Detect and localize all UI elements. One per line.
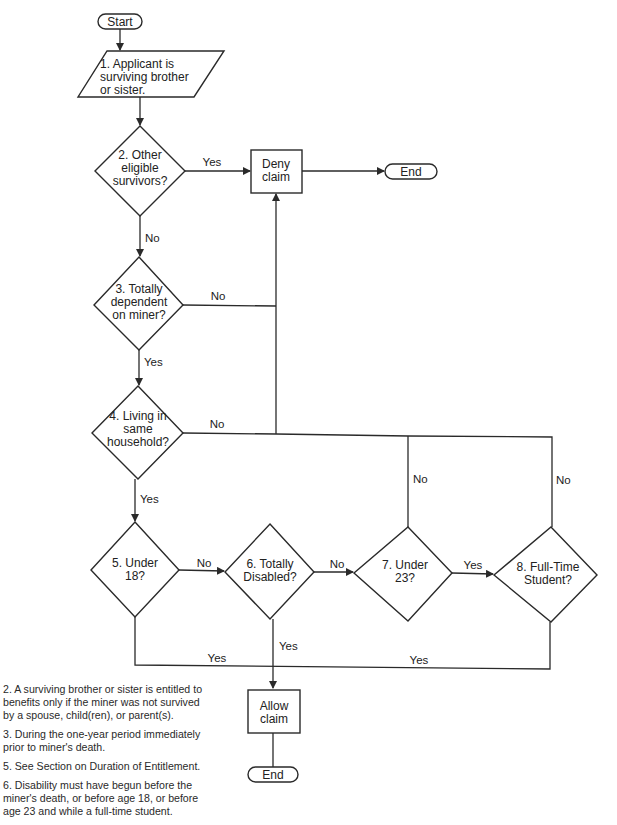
deny-line-2: claim [262, 170, 290, 184]
footnotes: 2. A surviving brother or sister is enti… [3, 683, 203, 824]
node-4-line-3: household? [107, 435, 169, 449]
node-7-line-1: 7. Under [382, 558, 428, 572]
end-bottom-label: End [262, 768, 283, 782]
node-3-line-1: 3. Totally [115, 282, 162, 296]
node-2-line-2: eligible [121, 161, 159, 175]
edge-yes-bus [135, 617, 550, 669]
deny-line-1: Deny [262, 157, 290, 171]
node-8-line-2: Student? [524, 573, 572, 587]
node-7-line-2: 23? [395, 571, 415, 585]
start-label: Start [107, 15, 133, 29]
edge-7-yes-to-8 [452, 573, 493, 574]
footnote-3: 3. During the one-year period immediatel… [3, 728, 203, 754]
node-6-line-1: 6. Totally [246, 557, 293, 571]
node-3-line-3: on miner? [112, 308, 166, 322]
edge-5-no-to-6 [179, 570, 224, 571]
start-terminal: Start [98, 14, 142, 29]
node-1-line-3: or sister. [100, 83, 145, 97]
node-8-full-time-student: 8. Full-Time Student? [494, 527, 597, 622]
footnote-6: 6. Disability must have begun before the… [3, 779, 203, 818]
allow-line-1: Allow [260, 699, 289, 713]
edge-label-2-no: No [145, 232, 160, 244]
edge-label-5-no: No [197, 557, 212, 569]
edge-label-6-no: No [330, 558, 345, 570]
end-top-label: End [400, 165, 421, 179]
node-5-line-1: 5. Under [112, 556, 158, 570]
node-1-applicant: 1. Applicant is surviving brother or sis… [78, 51, 224, 97]
node-6-totally-disabled: 6. Totally Disabled? [225, 524, 314, 619]
edge-label-3-yes: Yes [144, 356, 163, 368]
node-5-under-18: 5. Under 18? [91, 522, 179, 617]
edge-3-no [183, 305, 276, 306]
node-4-same-household: 4. Living in same household? [92, 386, 183, 479]
node-4-line-1: 4. Living in [109, 409, 166, 423]
footnote-5: 5. See Section on Duration of Entitlemen… [3, 760, 203, 773]
edge-label-7-yes: Yes [464, 559, 483, 571]
node-8-line-1: 8. Full-Time [517, 560, 580, 574]
edge-label-7-no: No [413, 473, 428, 485]
footnote-2: 2. A surviving brother or sister is enti… [3, 683, 203, 722]
edge-label-2-yes: Yes [203, 156, 222, 168]
edge-label-8-yes: Yes [410, 654, 429, 666]
edge-label-6-yes: Yes [279, 640, 298, 652]
node-1-line-2: surviving brother [100, 70, 189, 84]
edge-label-4-yes: Yes [140, 493, 159, 505]
node-4-line-2: same [123, 422, 153, 436]
node-5-line-2: 18? [125, 569, 145, 583]
edge-label-8-no: No [556, 474, 571, 486]
edge-label-4-no: No [210, 418, 225, 430]
node-2-line-3: survivors? [113, 174, 168, 188]
node-2-other-survivors: 2. Other eligible survivors? [95, 126, 185, 216]
deny-claim-box: Deny claim [251, 150, 302, 193]
allow-claim-box: Allow claim [248, 690, 300, 733]
allow-line-2: claim [260, 712, 288, 726]
end-terminal-top: End [385, 164, 437, 179]
node-7-under-23: 7. Under 23? [354, 527, 452, 621]
node-6-line-2: Disabled? [243, 570, 297, 584]
edge-label-3-no: No [211, 290, 226, 302]
end-terminal-bottom: End [248, 767, 298, 782]
node-1-line-1: 1. Applicant is [100, 57, 174, 71]
node-3-totally-dependent: 3. Totally dependent on miner? [94, 257, 183, 350]
edge-4-no-and-return [183, 433, 552, 527]
edge-label-5-yes: Yes [208, 652, 227, 664]
node-2-line-1: 2. Other [118, 148, 161, 162]
node-3-line-2: dependent [111, 295, 168, 309]
